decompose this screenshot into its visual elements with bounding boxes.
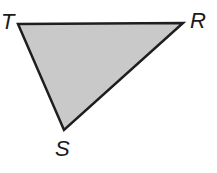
vertex-label-R: R	[190, 8, 206, 33]
vertex-label-S: S	[55, 136, 70, 161]
triangle-diagram: T R S	[0, 0, 217, 173]
diagram-canvas: T R S	[0, 0, 217, 173]
vertex-label-T: T	[1, 9, 16, 34]
triangle-TRS	[18, 23, 183, 130]
